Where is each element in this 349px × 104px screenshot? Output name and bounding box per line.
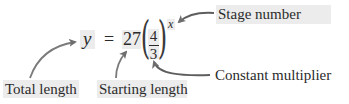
fraction-numerator: 4 xyxy=(150,29,158,44)
label-constant-multiplier: Constant multiplier xyxy=(215,67,331,84)
equation-exponent: x xyxy=(168,18,173,30)
label-total-length: Total length xyxy=(5,81,77,98)
equation-lhs: y xyxy=(83,29,91,49)
arrow-total-length xyxy=(30,42,75,78)
right-paren: ) xyxy=(158,16,167,60)
label-starting-length: Starting length xyxy=(99,81,188,98)
arrow-stage-number xyxy=(179,13,214,22)
label-stage-number: Stage number xyxy=(218,6,301,23)
arrow-starting-length xyxy=(116,52,126,78)
equation-diagram: y = 27 ( 4 3 ) x Stage number Total leng… xyxy=(0,0,349,104)
arrow-constant-multiplier xyxy=(154,62,210,75)
equation-coefficient: 27 xyxy=(123,29,141,49)
fraction-denominator: 3 xyxy=(150,47,158,62)
equation-equals: = xyxy=(104,29,114,49)
